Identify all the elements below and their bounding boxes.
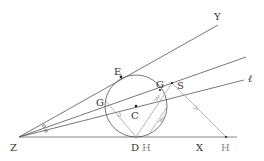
angle-mark-icon	[43, 125, 46, 128]
label-ell: ℓ	[248, 73, 252, 84]
label-Y: Y	[213, 11, 221, 22]
label-H-near: H	[142, 142, 151, 153]
label-H-far: H	[221, 142, 230, 153]
label-C: C	[131, 110, 139, 121]
double-arrow-icon	[160, 117, 163, 121]
label-G-left: G	[96, 97, 104, 108]
label-G-right: G	[156, 79, 164, 90]
line-H-parallel	[147, 107, 167, 137]
line-upper-parallel	[19, 57, 246, 137]
point-C	[135, 105, 138, 108]
label-Z: Z	[10, 142, 17, 153]
point-S	[171, 82, 173, 84]
double-arrow-icon	[154, 97, 157, 101]
label-D: D	[131, 142, 139, 153]
line-ell	[19, 80, 244, 137]
double-arrow-icon	[156, 95, 159, 99]
label-E: E	[114, 66, 121, 77]
point-H-far	[225, 136, 227, 138]
arrow-icon	[193, 105, 199, 111]
line-ZY	[19, 25, 218, 137]
label-X: X	[196, 142, 204, 153]
label-S: S	[177, 80, 184, 91]
geometry-diagram: Z Y X ℓ E G G C D H H S	[0, 0, 264, 161]
